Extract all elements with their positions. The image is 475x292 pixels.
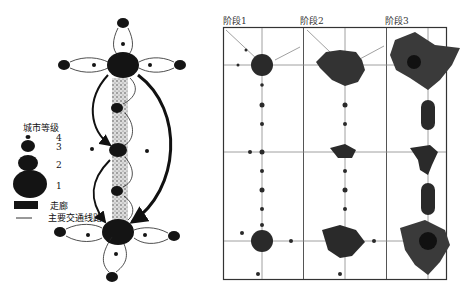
stage-3-label: 阶段3 <box>385 14 409 27</box>
legend-level-3: 3 <box>56 142 62 152</box>
legend-road-label: 主要交通线路 <box>48 213 102 223</box>
legend-level-1: 1 <box>56 181 62 191</box>
network-diagram <box>0 0 475 292</box>
legend-corridor-label: 走廊 <box>50 201 68 211</box>
stage-2-label: 阶段2 <box>300 14 324 27</box>
stage-1-label: 阶段1 <box>223 14 247 27</box>
legend-level-2: 2 <box>56 160 62 170</box>
legend-title: 城市等级 <box>23 123 59 133</box>
